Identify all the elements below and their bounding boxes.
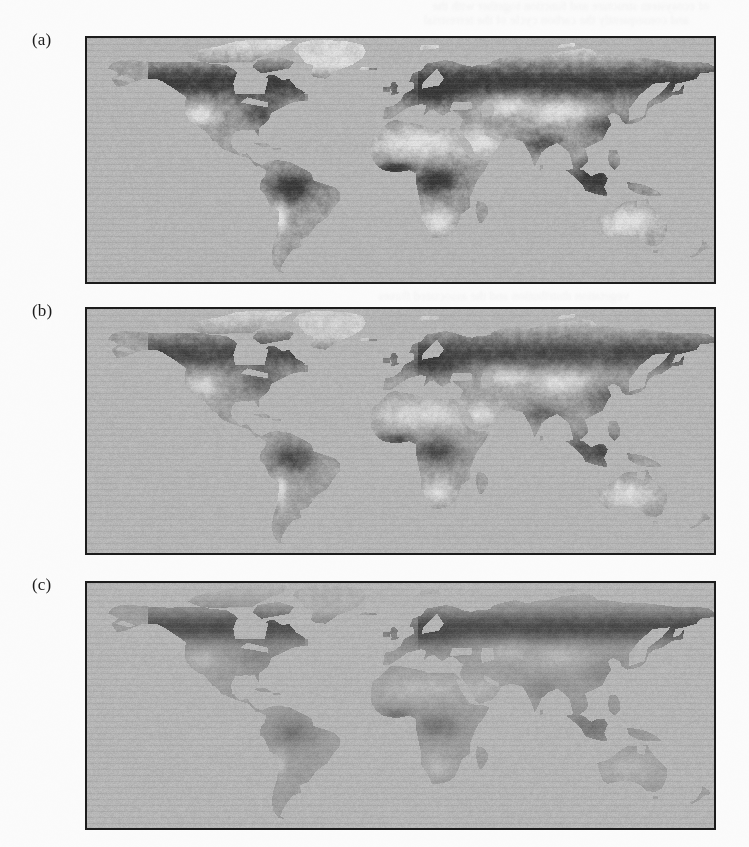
panel-label-c: (c) (32, 575, 51, 595)
world-map-image-c (87, 583, 714, 828)
world-map-image-b (87, 309, 714, 553)
map-panel-b (85, 307, 716, 555)
panel-label-b: (b) (32, 301, 52, 321)
world-map-image-a (87, 38, 714, 282)
figure-three-panel-world-maps: (a) (b) (c) (0, 0, 749, 847)
map-panel-a (85, 36, 716, 284)
map-panel-c (85, 581, 716, 830)
panel-label-a: (a) (32, 30, 51, 50)
